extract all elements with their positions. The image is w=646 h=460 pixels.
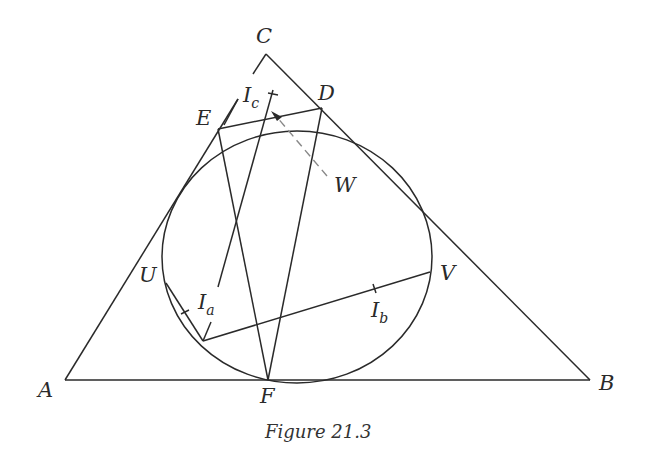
label-a: A xyxy=(38,380,53,401)
label-v: V xyxy=(440,263,455,284)
label-f: F xyxy=(260,386,275,407)
geometry-figure: C D E Ic W U V Ia Ib A F B Figure 21.3 xyxy=(0,0,646,460)
label-u: U xyxy=(139,265,157,286)
segment-pv xyxy=(203,272,430,341)
label-ia: Ia xyxy=(198,292,215,313)
ic-tick xyxy=(268,93,278,95)
label-w: W xyxy=(334,175,356,196)
figure-caption: Figure 21.3 xyxy=(265,421,371,442)
segment-ed xyxy=(218,108,322,129)
side-ac-upper xyxy=(253,54,266,74)
ic-pointer xyxy=(224,99,238,125)
figure-drawing xyxy=(0,0,646,460)
label-ib: Ib xyxy=(371,300,388,321)
circle xyxy=(162,131,432,383)
label-e: E xyxy=(196,108,211,129)
segment-ef xyxy=(218,129,268,380)
segment-df xyxy=(268,108,322,380)
label-b: B xyxy=(599,373,614,394)
label-d: D xyxy=(318,83,335,104)
label-c: C xyxy=(256,26,272,47)
side-bc xyxy=(266,54,590,380)
label-ic: Ic xyxy=(243,85,259,106)
